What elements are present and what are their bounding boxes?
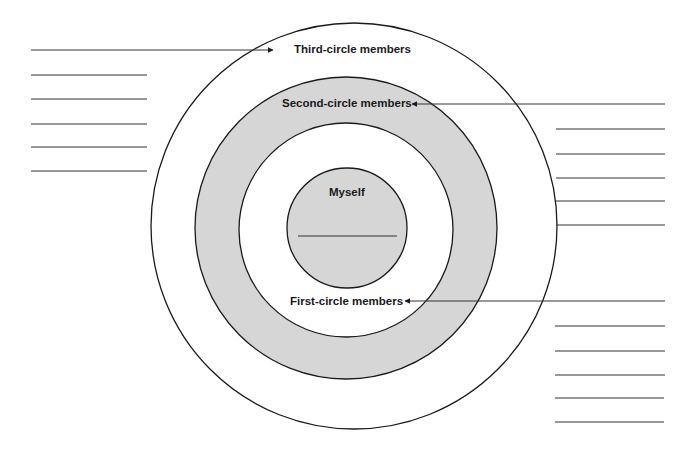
third-circle-label: Third-circle members bbox=[294, 44, 411, 56]
second-circle-label: Second-circle members bbox=[282, 98, 412, 110]
first-circle-label: First-circle members bbox=[290, 296, 403, 308]
myself-label: Myself bbox=[329, 187, 365, 199]
concentric-circles-diagram bbox=[0, 0, 692, 456]
